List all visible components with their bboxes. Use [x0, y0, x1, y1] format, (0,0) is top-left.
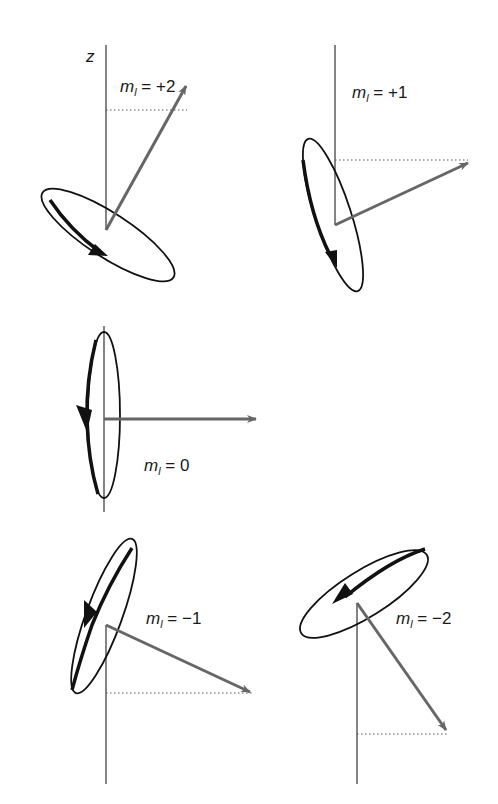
state-panel-ml-minus-2: ml = −2	[289, 535, 451, 784]
state-panel-ml-minus-1: ml = −1	[59, 533, 252, 784]
angular-momentum-vector	[106, 625, 250, 692]
state-panel-ml-plus-2: z ml = +2	[31, 45, 187, 296]
orbit-ellipse	[59, 533, 149, 699]
orbit-direction-arc	[50, 200, 100, 252]
orbit-ellipse	[291, 133, 375, 296]
orbit-arrowhead-icon	[325, 250, 337, 268]
ml-label: ml = +1	[352, 83, 407, 104]
angular-momentum-vector	[335, 163, 468, 225]
ml-label: ml = 0	[144, 456, 189, 477]
angular-momentum-vector	[106, 86, 186, 230]
orbit-direction-arc	[303, 160, 330, 255]
orbit-arrowhead-icon	[76, 405, 92, 432]
ml-label: ml = −2	[396, 609, 451, 630]
z-axis-label: z	[85, 47, 95, 66]
ml-label: ml = +2	[120, 77, 175, 98]
orbit-arrowhead-icon	[84, 600, 97, 628]
orbit-ellipse	[31, 174, 186, 296]
orbit-direction-arc	[345, 549, 425, 597]
state-panel-ml-plus-1: ml = +1	[291, 45, 468, 297]
state-panel-ml-0: ml = 0	[76, 326, 256, 512]
ml-label: ml = −1	[146, 609, 201, 630]
angular-momentum-diagram: z ml = +2 ml = +1 ml = 0 ml = −1	[0, 0, 498, 804]
